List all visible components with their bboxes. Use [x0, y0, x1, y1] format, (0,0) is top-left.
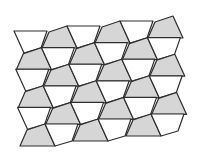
- tiling-diagram: [0, 0, 198, 158]
- tiles-layer: [14, 16, 187, 146]
